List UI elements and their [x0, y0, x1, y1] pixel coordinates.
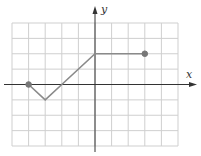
y-axis-label: y [101, 4, 107, 15]
x-axis-label: x [186, 69, 192, 80]
endpoint-dot [142, 51, 148, 57]
endpoint-dot [26, 82, 32, 88]
function-line [29, 54, 145, 100]
x-axis-arrow-icon [189, 82, 197, 87]
y-axis-arrow-icon [93, 6, 98, 14]
function-graph [0, 0, 201, 156]
